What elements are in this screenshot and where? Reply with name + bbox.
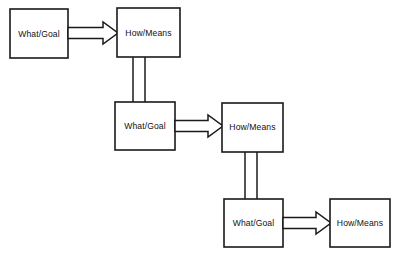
node-label: How/Means [229, 122, 275, 132]
block-arrow-right-icon [175, 115, 223, 137]
connector-how-means-2-to-what-goal-3 [245, 152, 257, 199]
arrow-what-goal-2-to-how-means-2 [175, 115, 223, 137]
node-what-goal-1[interactable]: What/Goal [10, 9, 68, 58]
node-how-means-2[interactable]: How/Means [222, 103, 283, 152]
node-label: How/Means [337, 218, 383, 228]
arrow-what-goal-1-to-how-means-1 [68, 22, 118, 44]
block-arrow-right-icon [283, 212, 331, 234]
diagram-canvas: What/Goal How/Means What/Goal How/Means [0, 0, 396, 259]
arrow-what-goal-3-to-how-means-3 [283, 212, 331, 234]
node-label: How/Means [125, 28, 171, 38]
node-what-goal-3[interactable]: What/Goal [224, 199, 283, 247]
node-label: What/Goal [124, 121, 166, 131]
connector-how-means-1-to-what-goal-2 [133, 57, 145, 102]
node-label: What/Goal [233, 218, 275, 228]
node-what-goal-2[interactable]: What/Goal [115, 102, 175, 150]
node-label: What/Goal [18, 29, 60, 39]
block-arrow-right-icon [68, 22, 118, 44]
what-how-cascade-diagram: What/Goal How/Means What/Goal How/Means [0, 0, 396, 259]
node-how-means-3[interactable]: How/Means [330, 199, 390, 247]
node-how-means-1[interactable]: How/Means [117, 8, 180, 57]
